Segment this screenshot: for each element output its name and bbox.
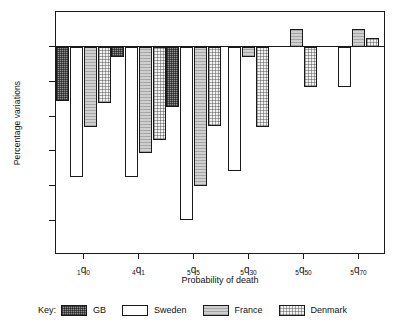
x-axis-tick-label: 5q70 <box>329 264 389 275</box>
x-axis-tick <box>358 253 359 259</box>
y-axis-title: Percentage variations <box>12 48 22 198</box>
y-axis-tick <box>49 116 56 117</box>
bar-5q70-france <box>352 29 366 46</box>
legend-label-denmark: Denmark <box>311 305 348 315</box>
legend-entry-denmark: Denmark <box>279 305 348 316</box>
legend-label-gb: GB <box>93 305 106 315</box>
bar-5q5-denmark <box>208 47 222 126</box>
x-axis-tick-label: 4q1 <box>109 264 169 275</box>
bar-5q70-denmark <box>366 38 380 47</box>
legend-entry-gb: GB <box>61 305 106 316</box>
x-axis-tick-label: 5q50 <box>274 264 334 275</box>
bar-5q70-sweden <box>338 47 352 87</box>
legend-label-france: France <box>235 305 263 315</box>
bar-5q5-france <box>194 47 208 186</box>
x-axis-tick <box>193 253 194 259</box>
bar-1q0-denmark <box>98 47 112 103</box>
x-axis-tick <box>248 253 249 259</box>
legend-swatch-denmark <box>279 305 305 316</box>
bar-4q1-france <box>139 47 153 153</box>
y-axis-tick <box>49 150 56 151</box>
legend-swatch-gb <box>61 305 87 316</box>
bar-5q30-france <box>242 47 256 57</box>
y-axis-tick <box>49 220 56 221</box>
legend-swatch-sweden <box>122 305 148 316</box>
bar-5q30-denmark <box>256 47 270 127</box>
x-axis-tick <box>138 253 139 259</box>
x-axis-tick <box>303 253 304 259</box>
bar-5q5-sweden <box>180 47 194 221</box>
bar-1q0-sweden <box>70 47 84 177</box>
bar-1q0-gb <box>56 47 70 101</box>
bar-5q5-gb <box>166 47 180 108</box>
legend-key-label: Key: <box>38 305 56 315</box>
x-axis-tick <box>83 253 84 259</box>
x-axis-tick-label: 1q0 <box>54 264 114 275</box>
figure: Percentage variations 100−10−20−30−40−50… <box>0 0 401 330</box>
x-axis-tick-label: 5q30 <box>219 264 279 275</box>
legend-entry-france: France <box>203 305 263 316</box>
bar-4q1-sweden <box>125 47 139 177</box>
legend: Key: GBSwedenFranceDenmark <box>38 300 388 320</box>
bar-5q30-sweden <box>228 47 242 171</box>
legend-swatch-france <box>203 305 229 316</box>
legend-entry-sweden: Sweden <box>122 305 187 316</box>
legend-label-sweden: Sweden <box>154 305 187 315</box>
bar-5q50-denmark <box>304 47 318 87</box>
bar-5q50-france <box>290 29 304 46</box>
bar-1q0-france <box>84 47 98 127</box>
x-axis-title: Probability of death <box>55 275 385 285</box>
bar-4q1-denmark <box>153 47 167 141</box>
x-axis-tick-label: 5q5 <box>164 264 224 275</box>
plot-area: 100−10−20−30−40−50−60 1q04q15q55q305q505… <box>55 11 385 254</box>
bar-4q1-gb <box>111 47 125 57</box>
y-axis-tick <box>49 185 56 186</box>
